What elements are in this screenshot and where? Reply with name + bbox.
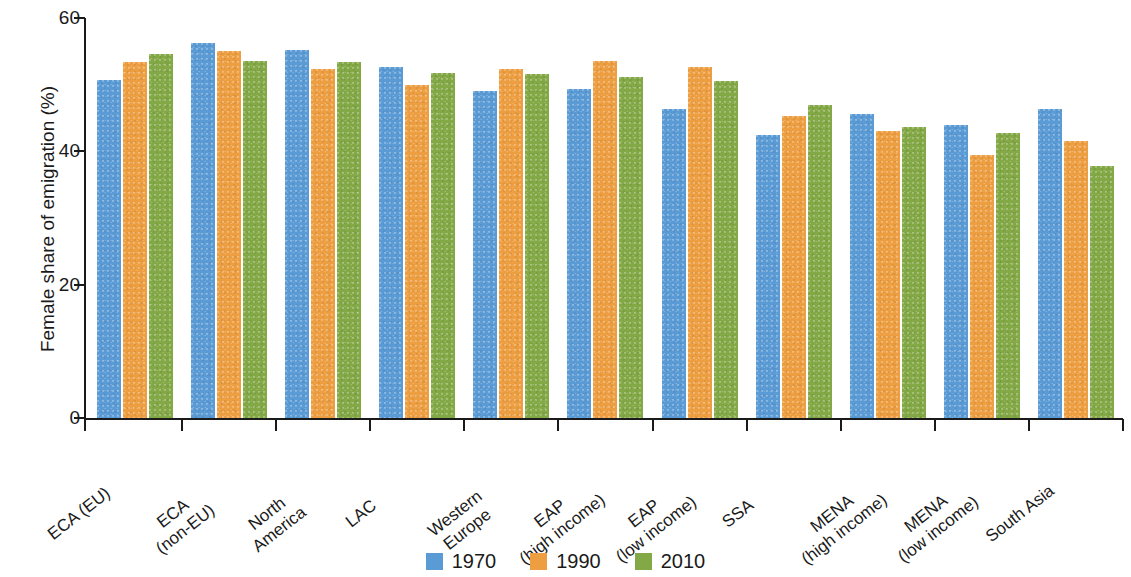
bar-group	[88, 18, 182, 418]
bar-1990	[499, 69, 523, 418]
legend-label: 1990	[556, 551, 601, 571]
bar-2010	[996, 133, 1020, 418]
bar-1990	[405, 85, 429, 418]
bar-1970	[756, 135, 780, 418]
bar-group	[747, 18, 841, 418]
x-tick	[934, 419, 936, 431]
bar-group	[276, 18, 370, 418]
x-tick	[1028, 419, 1030, 431]
plot-area: 0204060 ECA (EU)ECA (non-EU)North Americ…	[88, 18, 1123, 418]
bar-group	[182, 18, 276, 418]
y-axis-line	[84, 18, 86, 419]
x-tick	[746, 419, 748, 431]
x-tick	[652, 419, 654, 431]
x-tick	[275, 419, 277, 431]
legend-label: 2010	[661, 551, 706, 571]
bar-2010	[243, 61, 267, 418]
x-axis-line	[84, 418, 1123, 420]
bar-1990	[123, 62, 147, 418]
y-tick-label-40: 40	[20, 141, 80, 160]
chart-legend: 197019902010	[0, 551, 1131, 571]
bar-1970	[473, 91, 497, 418]
bar-1970	[97, 80, 121, 418]
legend-item-1990[interactable]: 1990	[530, 551, 601, 571]
bar-1990	[876, 131, 900, 418]
bar-1970	[285, 50, 309, 418]
bar-group	[653, 18, 747, 418]
y-tick-label-0: 0	[20, 408, 80, 427]
bar-2010	[808, 105, 832, 418]
bar-2010	[525, 74, 549, 418]
bar-1990	[311, 69, 335, 418]
bar-1990	[782, 116, 806, 418]
bar-1970	[944, 125, 968, 418]
bar-1990	[970, 155, 994, 418]
x-tick	[84, 419, 86, 431]
legend-swatch-icon	[426, 553, 443, 570]
bar-2010	[902, 127, 926, 418]
bar-1990	[217, 51, 241, 418]
x-tick	[181, 419, 183, 431]
bar-1970	[191, 43, 215, 418]
bar-1990	[688, 67, 712, 418]
x-tick	[557, 419, 559, 431]
legend-label: 1970	[452, 551, 497, 571]
bar-1970	[1038, 109, 1062, 418]
bar-2010	[149, 54, 173, 418]
x-tick	[369, 419, 371, 431]
bar-2010	[1090, 166, 1114, 418]
legend-swatch-icon	[530, 553, 547, 570]
x-tick	[463, 419, 465, 431]
y-tick-label-20: 20	[20, 275, 80, 294]
bar-1990	[1064, 141, 1088, 418]
bar-1970	[850, 114, 874, 418]
bar-group	[370, 18, 464, 418]
legend-swatch-icon	[635, 553, 652, 570]
bar-group	[841, 18, 935, 418]
y-tick-label-60: 60	[20, 8, 80, 27]
bar-1970	[379, 67, 403, 418]
bar-1970	[567, 89, 591, 418]
y-axis-title: Female share of emigration (%)	[37, 59, 59, 379]
bar-2010	[431, 73, 455, 418]
x-tick	[1122, 419, 1124, 431]
x-tick	[840, 419, 842, 431]
bar-2010	[337, 62, 361, 418]
legend-item-2010[interactable]: 2010	[635, 551, 706, 571]
bar-group	[1029, 18, 1123, 418]
bar-2010	[619, 77, 643, 418]
bar-1990	[593, 61, 617, 418]
bar-2010	[714, 81, 738, 418]
bar-group	[558, 18, 652, 418]
bar-group	[935, 18, 1029, 418]
bar-group	[464, 18, 558, 418]
bar-chart-figure: Female share of emigration (%) 0204060 E…	[0, 0, 1131, 577]
bar-1970	[662, 109, 686, 418]
legend-item-1970[interactable]: 1970	[426, 551, 497, 571]
